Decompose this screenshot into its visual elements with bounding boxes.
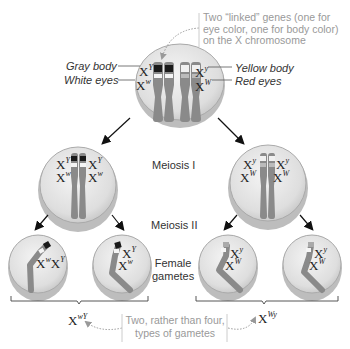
gamete-type-left: XwY	[68, 311, 87, 327]
allele-XW-top-right: XW	[195, 77, 211, 93]
label-yellow-body: Yellow body	[235, 62, 294, 74]
meiosis1-cell-right	[228, 145, 308, 230]
two-types-line-2: types of gametes	[125, 327, 225, 340]
linked-genes-note: Two “linked” genes (one for eye color, o…	[203, 12, 338, 47]
note-line-3: on the X chromosome	[203, 35, 338, 47]
allele-m1r-XW-b: XW	[273, 168, 289, 184]
label-white-eyes: White eyes	[64, 74, 118, 86]
label-meiosis-2: Meiosis II	[151, 219, 197, 231]
allele-gamete3-XW: XW	[225, 256, 241, 272]
allele-gamete1: XwXY	[36, 254, 65, 270]
allele-Xw-top-left: Xw	[136, 76, 151, 92]
two-types-note: Two, rather than four, types of gametes	[125, 314, 225, 340]
label-female-gametes: Female gametes	[152, 257, 194, 283]
note-line-1: Two “linked” genes (one for	[203, 12, 338, 24]
meiosis-diagram	[0, 0, 350, 349]
two-types-line-1: Two, rather than four,	[125, 314, 225, 327]
label-gray-body: Gray body	[66, 60, 117, 72]
gamete-type-right: XWy	[258, 309, 277, 325]
gametes-line: gametes	[152, 270, 194, 283]
allele-m1l-Xw-a: Xw	[56, 168, 71, 184]
allele-m1l-Xw-b: Xw	[88, 168, 103, 184]
female-line: Female	[152, 257, 194, 270]
label-red-eyes: Red eyes	[235, 75, 281, 87]
label-meiosis-1: Meiosis I	[152, 159, 195, 171]
meiosis1-cell-left	[38, 147, 118, 232]
allele-gamete2-Xw: Xw	[118, 256, 133, 272]
allele-m1r-XW-a: XW	[240, 168, 256, 184]
allele-gamete4-XW: XW	[309, 256, 325, 272]
